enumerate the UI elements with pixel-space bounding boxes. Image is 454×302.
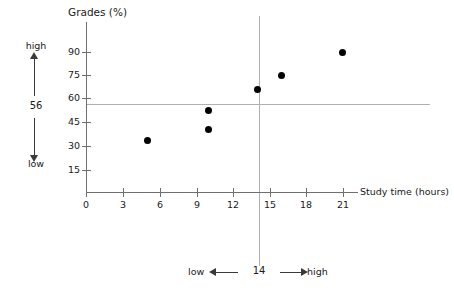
x-tick-label-0: 0 [76,199,96,210]
data-point [339,49,346,56]
x-threshold-value-label: 14 [239,265,279,276]
arrow-left-icon [209,268,216,276]
y-tick-mark-45 [82,122,91,123]
data-point [278,72,285,79]
y-tick-mark-75 [82,75,91,76]
y-axis-line [86,22,87,192]
x-tick-mark-9 [197,188,198,197]
x-tick-label-18: 18 [296,199,316,210]
y-tick-label-45: 45 [68,116,80,127]
scatter-plot-figure: Grades (%) 90 75 60 45 30 15 0 3 6 9 12 … [0,0,454,302]
plot-title: Grades (%) [68,6,127,18]
x-annotation-low-label: low [188,266,204,277]
x-tick-label-21: 21 [333,199,353,210]
x-tick-mark-12 [233,188,234,197]
x-tick-mark-0 [86,188,87,197]
horizontal-reference-line-56 [86,104,430,105]
y-annotation-low-label: low [0,158,72,169]
x-tick-mark-15 [270,188,271,197]
y-annotation-up-arrow-shaft [34,58,35,96]
x-tick-label-12: 12 [223,199,243,210]
y-tick-mark-30 [82,146,91,147]
data-point [144,137,151,144]
x-tick-label-15: 15 [260,199,280,210]
x-tick-label-6: 6 [150,199,170,210]
y-tick-label-75: 75 [68,69,80,80]
x-annotation-left-arrow-shaft [216,272,238,273]
x-annotation-right-arrow-shaft [280,272,302,273]
y-tick-label-30: 30 [68,140,80,151]
data-point [205,126,212,133]
vertical-reference-line-14 [259,16,260,266]
x-tick-label-9: 9 [187,199,207,210]
y-tick-mark-60 [82,98,91,99]
data-point [254,86,261,93]
x-tick-mark-6 [160,188,161,197]
x-tick-mark-21 [343,188,344,197]
data-point [205,107,212,114]
x-axis-line [86,192,358,193]
y-annotation-down-arrow-shaft [34,118,35,156]
x-tick-mark-18 [306,188,307,197]
y-tick-mark-90 [82,52,91,53]
x-tick-mark-3 [123,188,124,197]
y-annotation-high-label: high [0,40,72,51]
x-axis-label: Study time (hours) [360,186,449,197]
x-annotation-high-label: high [307,266,328,277]
x-tick-label-3: 3 [113,199,133,210]
y-tick-mark-15 [82,170,91,171]
y-threshold-value-label: 56 [0,100,72,111]
